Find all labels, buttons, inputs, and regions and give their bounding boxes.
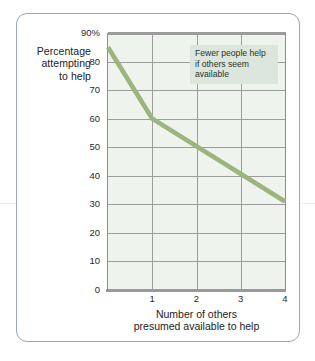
- y-axis-title-line-3: to help: [21, 70, 91, 82]
- y-tick-label-40: 40: [0, 170, 100, 181]
- y-tick-label-50: 50: [0, 141, 100, 152]
- y-tick-label-80: 80: [0, 56, 100, 67]
- annotation-line-3: available: [195, 69, 274, 80]
- y-tick-label-20: 20: [0, 227, 100, 238]
- x-tick-label-2: 2: [194, 293, 199, 304]
- annotation-callout: Fewer people help if others seem availab…: [190, 45, 278, 84]
- y-tick-label-90%: 90%: [0, 27, 100, 38]
- annotation-line-2: if others seem: [195, 59, 274, 70]
- figure-page: Percentage attempting to help 0102030405…: [0, 0, 315, 361]
- x-tick-label-3: 3: [238, 293, 243, 304]
- x-tick-label-1: 1: [150, 293, 155, 304]
- x-axis-title-line-2: presumed available to help: [108, 320, 285, 332]
- x-axis-title: Number of others presumed available to h…: [108, 308, 285, 333]
- x-axis-title-line-1: Number of others: [108, 308, 285, 320]
- x-tick-label-4: 4: [282, 293, 287, 304]
- y-tick-label-70: 70: [0, 84, 100, 95]
- y-tick-label-30: 30: [0, 198, 100, 209]
- annotation-line-1: Fewer people help: [195, 48, 274, 59]
- y-tick-label-0: 0: [0, 284, 100, 295]
- y-tick-label-10: 10: [0, 255, 100, 266]
- y-tick-label-60: 60: [0, 113, 100, 124]
